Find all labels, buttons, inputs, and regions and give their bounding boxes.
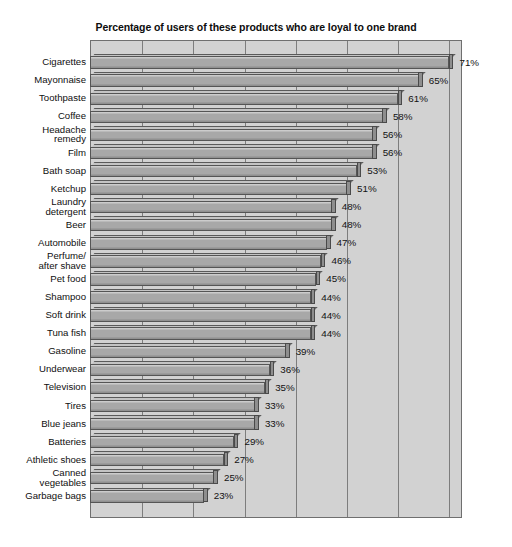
- category-label: Tuna fish: [0, 328, 86, 338]
- bar-value-label: 51%: [357, 183, 377, 194]
- bar-end-cap: [449, 54, 454, 69]
- category-label: Soft drink: [0, 310, 86, 320]
- bar-row: Canned vegetables25%: [0, 469, 512, 487]
- bar-body: [90, 436, 234, 448]
- bar: [90, 219, 336, 231]
- bar-body: [90, 472, 214, 484]
- bar-body: [90, 183, 347, 195]
- bar-value-label: 44%: [321, 292, 341, 303]
- bar-value-label: 35%: [275, 382, 295, 393]
- category-label: Cigarettes: [0, 57, 86, 67]
- chart-title: Percentage of users of these products wh…: [0, 21, 512, 33]
- bar: [90, 418, 259, 430]
- bar-row: Toothpaste61%: [0, 89, 512, 107]
- bar-end-cap: [418, 72, 423, 87]
- bar-value-label: 47%: [337, 237, 357, 248]
- bar-body: [90, 237, 327, 249]
- bar-value-label: 48%: [342, 219, 362, 230]
- category-label: Underwear: [0, 364, 86, 374]
- category-label: Mayonnaise: [0, 75, 86, 85]
- bar-row: Laundry detergent48%: [0, 198, 512, 216]
- category-label: Athletic shoes: [0, 455, 86, 465]
- bar: [90, 454, 228, 466]
- bar-value-label: 33%: [265, 400, 285, 411]
- bar: [90, 436, 238, 448]
- bar: [90, 201, 336, 213]
- bar-value-label: 44%: [321, 328, 341, 339]
- bar: [90, 93, 402, 105]
- bar: [90, 400, 259, 412]
- bar-end-cap: [234, 434, 239, 449]
- bar-end-cap: [311, 325, 316, 340]
- category-label: Blue jeans: [0, 419, 86, 429]
- bar: [90, 382, 269, 394]
- bar: [90, 255, 325, 267]
- bar-body: [90, 56, 449, 68]
- bar-body: [90, 219, 332, 231]
- bar-row: Athletic shoes27%: [0, 451, 512, 469]
- bar-value-label: 39%: [296, 346, 316, 357]
- bar-value-label: 25%: [224, 472, 244, 483]
- bar-row: Garbage bags23%: [0, 487, 512, 505]
- bar-row: Shampoo44%: [0, 288, 512, 306]
- bar-row: Blue jeans33%: [0, 414, 512, 432]
- bar-body: [90, 165, 357, 177]
- bar: [90, 129, 377, 141]
- bar: [90, 291, 315, 303]
- bar-row: Tires33%: [0, 396, 512, 414]
- bar-row: Television35%: [0, 378, 512, 396]
- bar-value-label: 27%: [234, 454, 254, 465]
- bar-row: Bath soap53%: [0, 161, 512, 179]
- bar-row: Gasoline39%: [0, 342, 512, 360]
- bar: [90, 346, 290, 358]
- bar-row: Soft drink44%: [0, 306, 512, 324]
- bar-value-label: 33%: [265, 418, 285, 429]
- bar-value-label: 65%: [429, 75, 449, 86]
- bar: [90, 111, 387, 123]
- bar: [90, 74, 423, 86]
- bar-value-label: 23%: [214, 490, 234, 501]
- bar-row: Automobile47%: [0, 234, 512, 252]
- category-label: Perfume/ after shave: [0, 251, 86, 270]
- bar-end-cap: [398, 90, 403, 105]
- category-label: Coffee: [0, 111, 86, 121]
- bar: [90, 237, 331, 249]
- bar-body: [90, 201, 332, 213]
- bar-value-label: 53%: [367, 165, 387, 176]
- bar-body: [90, 255, 321, 267]
- bar: [90, 472, 218, 484]
- category-label: Garbage bags: [0, 491, 86, 501]
- bar-row: Cigarettes71%: [0, 53, 512, 71]
- bar: [90, 56, 453, 68]
- category-label: Laundry detergent: [0, 197, 86, 216]
- category-label: Tires: [0, 401, 86, 411]
- category-label: Gasoline: [0, 346, 86, 356]
- bar-row: Batteries29%: [0, 433, 512, 451]
- bar-value-label: 44%: [321, 310, 341, 321]
- bar-end-cap: [203, 488, 208, 503]
- bar-row: Film56%: [0, 143, 512, 161]
- bar-row: Pet food45%: [0, 270, 512, 288]
- bar-body: [90, 346, 286, 358]
- bar-row: Ketchup51%: [0, 180, 512, 198]
- bar-row: Headache remedy56%: [0, 125, 512, 143]
- bar-body: [90, 111, 383, 123]
- category-label: Television: [0, 382, 86, 392]
- bar: [90, 490, 208, 502]
- bar-value-label: 61%: [408, 93, 428, 104]
- bar-end-cap: [224, 452, 229, 467]
- bar-end-cap: [321, 253, 326, 268]
- bar-end-cap: [316, 271, 321, 286]
- bar-value-label: 71%: [459, 57, 479, 68]
- bar-value-label: 48%: [342, 201, 362, 212]
- bar-row: Tuna fish44%: [0, 324, 512, 342]
- category-label: Batteries: [0, 437, 86, 447]
- bar-end-cap: [254, 397, 259, 412]
- bar-row: Perfume/ after shave46%: [0, 252, 512, 270]
- bar-body: [90, 309, 311, 321]
- category-label: Toothpaste: [0, 93, 86, 103]
- category-label: Pet food: [0, 274, 86, 284]
- bar-end-cap: [372, 144, 377, 159]
- bar-body: [90, 129, 373, 141]
- category-label: Automobile: [0, 238, 86, 248]
